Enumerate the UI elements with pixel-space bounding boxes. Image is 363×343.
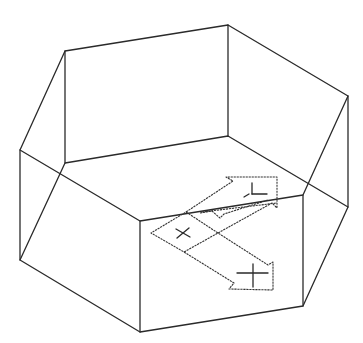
ucs-icon [151, 177, 277, 290]
z-axis-arrow-inner [202, 203, 277, 212]
z-axis-label-icon [244, 183, 267, 197]
hexagonal-prism-diagram [0, 0, 363, 343]
z-axis-arrow-notch [200, 200, 268, 218]
x-axis-arrow [184, 233, 273, 290]
x-mark-icon [176, 228, 190, 238]
prism-wireframe [20, 25, 348, 332]
plus-icon [237, 264, 268, 287]
top-face-edges [20, 25, 348, 221]
